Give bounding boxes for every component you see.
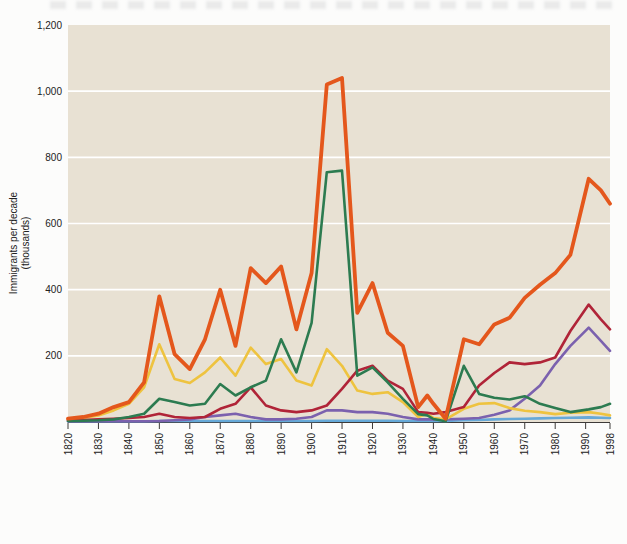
x-tick-label-1940: 1940 <box>428 433 439 456</box>
y-tick-label-1200: 1,200 <box>37 20 62 31</box>
x-tick-label-1998: 1998 <box>605 433 616 456</box>
x-tick-label-1870: 1870 <box>215 433 226 456</box>
y-tick-label-400: 400 <box>45 284 62 295</box>
x-tick-label-1860: 1860 <box>184 433 195 456</box>
x-tick-label-1830: 1830 <box>93 433 104 456</box>
x-tick-label-1960: 1960 <box>489 433 500 456</box>
immigration-line-chart: 2004006008001,0001,200Immigrants per dec… <box>0 0 627 462</box>
x-tick-label-1990: 1990 <box>580 433 591 456</box>
y-tick-label-800: 800 <box>45 152 62 163</box>
chart-legend: Northwestern Europe Central,Eastern, and… <box>0 462 627 544</box>
y-tick-label-200: 200 <box>45 350 62 361</box>
x-tick-label-1820: 1820 <box>63 433 74 456</box>
x-tick-label-1930: 1930 <box>397 433 408 456</box>
y-tick-label-1000: 1,000 <box>37 86 62 97</box>
x-tick-label-1850: 1850 <box>154 433 165 456</box>
y-axis-title-units: (thousands) <box>20 217 31 270</box>
figure-page: 2004006008001,0001,200Immigrants per dec… <box>0 0 627 544</box>
x-tick-label-1950: 1950 <box>458 433 469 456</box>
x-tick-label-1910: 1910 <box>337 433 348 456</box>
x-tick-label-1920: 1920 <box>367 433 378 456</box>
x-tick-label-1890: 1890 <box>276 433 287 456</box>
x-tick-label-1840: 1840 <box>123 433 134 456</box>
x-tick-label-1980: 1980 <box>550 433 561 456</box>
x-tick-label-1970: 1970 <box>519 433 530 456</box>
x-tick-label-1880: 1880 <box>245 433 256 456</box>
y-axis-title: Immigrants per decade <box>8 191 19 294</box>
y-tick-label-600: 600 <box>45 218 62 229</box>
x-tick-label-1900: 1900 <box>306 433 317 456</box>
